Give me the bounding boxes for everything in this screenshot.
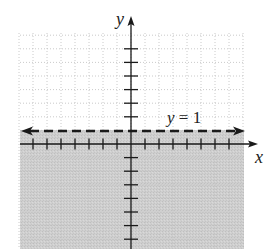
boundary-equation-label: y = 1 (165, 108, 201, 127)
shaded-region (20, 130, 244, 249)
y-axis-label: y (114, 9, 124, 29)
x-axis-label: x (254, 147, 263, 167)
inequality-graph: y x y = 1 (0, 0, 277, 249)
